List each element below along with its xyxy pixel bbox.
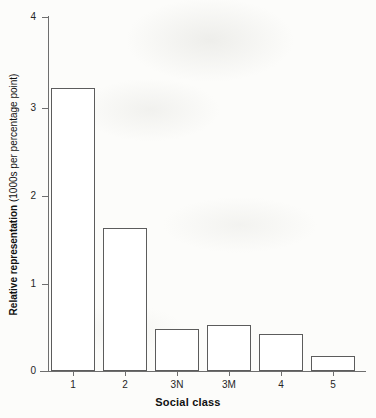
x-axis-tick-1	[73, 371, 74, 376]
y-axis-tick-3	[42, 108, 48, 109]
x-axis-tick-2	[125, 371, 126, 376]
x-axis-label-3m: 3M	[209, 379, 249, 390]
bar-chart-figure: 4 3 2 1 0 1 2 3N 3M 4 5 Relative represe…	[0, 0, 376, 418]
y-axis-line	[48, 16, 49, 372]
bar-2	[103, 228, 147, 371]
y-axis-title: Relative representation (1000s per perce…	[8, 25, 19, 365]
y-axis-title-bold: Relative representation	[8, 205, 19, 316]
x-axis-title: Social class	[0, 396, 376, 408]
y-axis-tick-label-4: 4	[14, 12, 36, 22]
y-axis-tick-1	[42, 284, 48, 285]
bar-3m	[207, 325, 251, 371]
x-axis-tick-3m	[229, 371, 230, 376]
y-axis-tick-4	[42, 17, 48, 18]
x-axis-line	[40, 371, 366, 372]
x-axis-label-4: 4	[261, 379, 301, 390]
bar-5	[311, 356, 355, 371]
x-axis-label-3n: 3N	[157, 379, 197, 390]
x-axis-label-1: 1	[53, 379, 93, 390]
x-axis-tick-3n	[177, 371, 178, 376]
x-axis-label-5: 5	[313, 379, 353, 390]
bar-4	[259, 334, 303, 371]
x-axis-label-2: 2	[105, 379, 145, 390]
x-axis-tick-5	[333, 371, 334, 376]
x-axis-tick-4	[281, 371, 282, 376]
y-axis-title-regular: (1000s per percentage point)	[8, 74, 19, 205]
y-axis-tick-label-0: 0	[14, 366, 36, 376]
bar-1	[51, 88, 95, 371]
y-axis-tick-2	[42, 196, 48, 197]
bar-3n	[155, 329, 199, 371]
